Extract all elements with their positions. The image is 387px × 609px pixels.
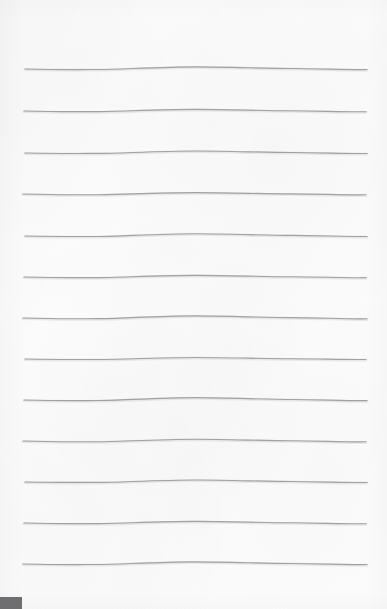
ruled-lines-group — [0, 0, 387, 609]
corner-scan-artifact — [0, 597, 22, 609]
scanned-page — [0, 0, 387, 609]
